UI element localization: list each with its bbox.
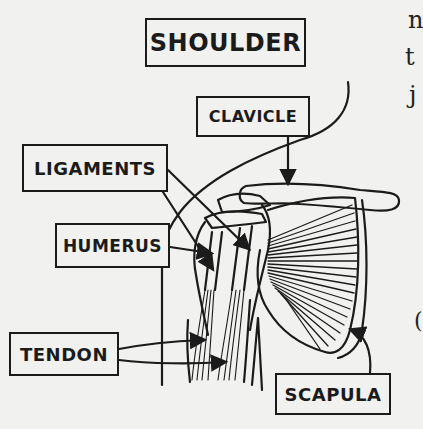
label-tendon: TENDON — [9, 332, 119, 376]
ligaments-pointer-1 — [168, 170, 248, 248]
side-text-fragment: t — [405, 45, 415, 69]
label-humerus: HUMERUS — [55, 223, 170, 268]
scapula-pointer — [352, 330, 370, 373]
side-text-fragment: j — [409, 83, 416, 107]
title-label-shoulder: SHOULDER — [145, 18, 306, 67]
label-clavicle: CLAVICLE — [196, 96, 310, 137]
side-text-fragment: ( — [414, 310, 423, 332]
tendon-fibers — [192, 290, 244, 380]
tendon-pointer-2 — [119, 360, 224, 363]
label-ligaments: LIGAMENTS — [22, 144, 168, 192]
side-text-fragment: n — [408, 8, 423, 32]
label-scapula: SCAPULA — [275, 373, 391, 415]
humerus-pointer — [170, 247, 210, 253]
